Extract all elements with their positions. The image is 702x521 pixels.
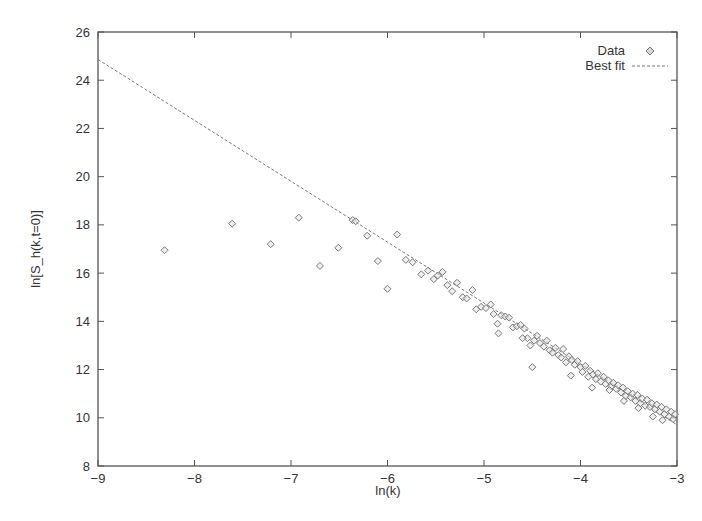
legend: Data Best fit	[585, 43, 668, 73]
data-point	[567, 372, 574, 379]
data-point	[295, 214, 302, 221]
data-point	[229, 220, 236, 227]
legend-label-data: Data	[598, 43, 626, 58]
data-point	[418, 271, 425, 278]
y-tick-label: 10	[76, 410, 90, 425]
y-tick-label: 14	[76, 314, 90, 329]
chart-canvas: 8101214161820222426 −9−8−7−6−5−4−3 ln(k)…	[0, 0, 702, 521]
data-point	[453, 279, 460, 286]
data-point	[161, 247, 168, 254]
y-tick-label: 24	[76, 73, 90, 88]
y-tick-label: 8	[83, 459, 90, 474]
data-point	[529, 364, 536, 371]
x-tick-label: −8	[187, 471, 202, 486]
data-point	[402, 256, 409, 263]
plot-frame	[98, 32, 677, 466]
legend-label-best-fit: Best fit	[585, 58, 625, 73]
data-point	[490, 311, 497, 318]
x-tick-label: −5	[477, 471, 492, 486]
y-tick-label: 18	[76, 217, 90, 232]
data-point	[425, 267, 432, 274]
data-point	[384, 285, 391, 292]
y-tick-label: 12	[76, 362, 90, 377]
data-point	[444, 282, 451, 289]
y-tick-label: 26	[76, 25, 90, 40]
y-axis-label: ln[S_h(k,t=0)]	[28, 210, 43, 288]
data-point	[394, 231, 401, 238]
diamond-marker-icon	[646, 47, 654, 55]
data-point	[589, 384, 596, 391]
x-tick-label: −3	[670, 471, 685, 486]
y-tick-label: 16	[76, 266, 90, 281]
data-point	[364, 232, 371, 239]
y-tick-label: 22	[76, 121, 90, 136]
data-point	[469, 286, 476, 293]
plot-border	[98, 32, 677, 466]
x-tick-label: −7	[284, 471, 299, 486]
data-point	[374, 258, 381, 265]
data-point	[267, 241, 274, 248]
x-tick-label: −9	[91, 471, 106, 486]
data-point	[316, 262, 323, 269]
y-tick-label: 20	[76, 169, 90, 184]
data-point	[449, 288, 456, 295]
data-point	[649, 413, 656, 420]
x-axis: −9−8−7−6−5−4−3	[91, 32, 685, 486]
data-point	[519, 335, 526, 342]
data-point	[335, 244, 342, 251]
data-points	[161, 214, 678, 424]
x-tick-label: −4	[573, 471, 588, 486]
x-axis-label: ln(k)	[375, 483, 400, 498]
data-point	[494, 320, 501, 327]
data-point	[495, 330, 502, 337]
